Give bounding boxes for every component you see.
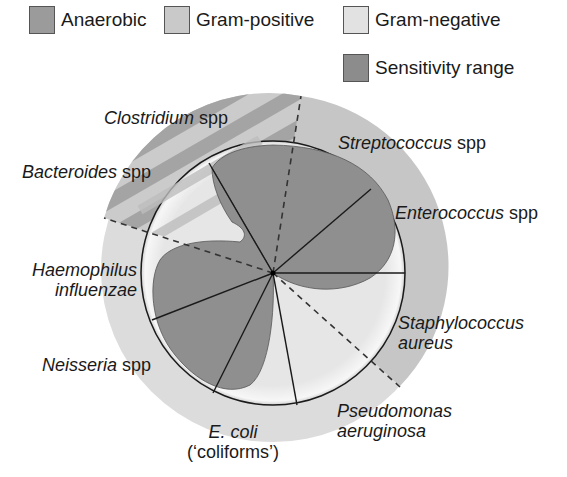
label-ecoli: E. coli (‘coliforms’): [178, 422, 288, 462]
label-bacteroides: Bacteroides spp: [22, 162, 151, 182]
sensitivity-diagram: [0, 0, 567, 477]
label-clostridium: Clostridium spp: [104, 108, 228, 128]
label-haemophilus: Haemophilus influenzae: [12, 260, 137, 300]
label-pseudomonas: Pseudomonas aeruginosa: [337, 401, 452, 441]
label-staphylococcus: Staphylococcus aureus: [398, 313, 524, 353]
label-enterococcus: Enterococcus spp: [395, 203, 538, 223]
label-neisseria: Neisseria spp: [42, 355, 151, 375]
label-streptococcus: Streptococcus spp: [338, 133, 486, 153]
center-point: [271, 271, 276, 276]
